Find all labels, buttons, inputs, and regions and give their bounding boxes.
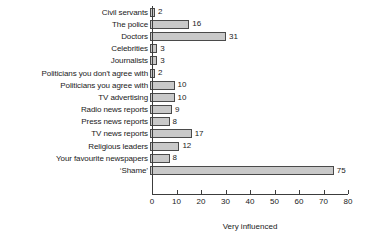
chart-row: TV advertising10 (0, 91, 365, 103)
category-label: Religious leaders (0, 142, 150, 151)
category-label: Radio news reports (0, 105, 150, 114)
bar-value-label: 9 (175, 105, 179, 115)
bar-track: 2 (150, 6, 365, 18)
bar (150, 81, 175, 90)
chart-row: Celebrities3 (0, 43, 365, 55)
bar (150, 166, 334, 175)
bar-track: 10 (150, 79, 365, 91)
bar (150, 142, 179, 151)
category-label: Press news reports (0, 117, 150, 126)
bar-value-label: 3 (160, 56, 164, 66)
category-label: Politicians you don't agree with (0, 69, 150, 78)
bar-track: 75 (150, 164, 365, 176)
chart-row: Politicians you don't agree with2 (0, 67, 365, 79)
x-axis-line (152, 194, 348, 195)
bar (150, 129, 192, 138)
bar-value-label: 16 (192, 19, 201, 29)
x-tick-label: 50 (270, 197, 279, 207)
x-tick-label: 30 (221, 197, 230, 207)
category-label: Civil servants (0, 8, 150, 17)
bar-track: 31 (150, 30, 365, 42)
x-tick-label: 40 (246, 197, 255, 207)
x-tick (152, 190, 153, 194)
x-tick-label: 80 (344, 197, 353, 207)
bar-track: 17 (150, 128, 365, 140)
x-tick-label: 70 (319, 197, 328, 207)
category-label: Journalists (0, 56, 150, 65)
chart-row: Press news reports8 (0, 116, 365, 128)
bar-value-label: 8 (173, 153, 177, 163)
bar-track: 8 (150, 152, 365, 164)
bar (150, 93, 175, 102)
bar-value-label: 10 (178, 80, 187, 90)
chart-row: Radio news reports9 (0, 104, 365, 116)
x-tick-label: 0 (150, 197, 154, 207)
chart-row: TV news reports17 (0, 128, 365, 140)
x-tick (299, 190, 300, 194)
bar-value-label: 12 (182, 141, 191, 151)
x-tick (177, 190, 178, 194)
chart-rows: Civil servants2The police16Doctors31Cele… (0, 6, 365, 177)
bar (150, 20, 189, 29)
chart-row: Journalists3 (0, 55, 365, 67)
category-label: Politicians you agree with (0, 81, 150, 90)
category-label: TV news reports (0, 129, 150, 138)
x-tick-label: 60 (295, 197, 304, 207)
category-label: Celebrities (0, 44, 150, 53)
bar-track: 3 (150, 43, 365, 55)
bar-value-label: 2 (158, 68, 162, 78)
bar-track: 2 (150, 67, 365, 79)
bar-value-label: 8 (173, 117, 177, 127)
chart-row: ‘Shame’75 (0, 164, 365, 176)
bar-track: 3 (150, 55, 365, 67)
bar-track: 10 (150, 91, 365, 103)
category-label: Your favourite newspapers (0, 154, 150, 163)
x-tick (275, 190, 276, 194)
bar-value-label: 31 (229, 32, 238, 42)
x-tick (226, 190, 227, 194)
bar-track: 12 (150, 140, 365, 152)
bar-value-label: 10 (178, 93, 187, 103)
bar-value-label: 17 (195, 129, 204, 139)
bar-chart: Civil servants2The police16Doctors31Cele… (0, 0, 365, 242)
x-tick-label: 20 (197, 197, 206, 207)
bar-value-label: 75 (337, 166, 346, 176)
x-tick (201, 190, 202, 194)
category-label: ‘Shame’ (0, 166, 150, 175)
category-label: The police (0, 20, 150, 29)
bar-value-label: 2 (158, 7, 162, 17)
bar (150, 32, 226, 41)
bar-track: 9 (150, 104, 365, 116)
y-axis-line (152, 6, 153, 195)
x-tick-label: 10 (172, 197, 181, 207)
bar-track: 16 (150, 18, 365, 30)
category-label: Doctors (0, 32, 150, 41)
bar-track: 8 (150, 116, 365, 128)
x-tick (250, 190, 251, 194)
chart-row: The police16 (0, 18, 365, 30)
chart-row: Your favourite newspapers8 (0, 152, 365, 164)
chart-row: Doctors31 (0, 30, 365, 42)
chart-row: Politicians you agree with10 (0, 79, 365, 91)
x-tick (324, 190, 325, 194)
bar-value-label: 3 (160, 44, 164, 54)
category-label: TV advertising (0, 93, 150, 102)
chart-row: Religious leaders12 (0, 140, 365, 152)
x-tick (348, 190, 349, 194)
x-axis-label: Very influenced (152, 222, 348, 232)
chart-row: Civil servants2 (0, 6, 365, 18)
